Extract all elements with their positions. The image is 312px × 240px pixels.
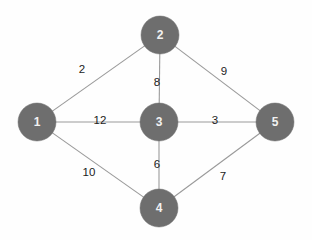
edge-weight-label-3-4: 6 xyxy=(154,158,160,170)
graph-edge-1-4 xyxy=(52,132,145,197)
edge-weight-label-3-5: 3 xyxy=(212,114,218,126)
graph-edge-2-5 xyxy=(174,46,260,111)
graph-node-2[interactable]: 2 xyxy=(141,16,179,54)
edge-weight-label-1-4: 10 xyxy=(83,166,96,178)
node-label-3: 3 xyxy=(156,115,163,129)
graph-node-5[interactable]: 5 xyxy=(256,103,294,141)
graph-edge-4-5 xyxy=(173,133,260,198)
graph-diagram-canvas: 12345 2981236107 xyxy=(0,0,312,240)
node-label-2: 2 xyxy=(157,28,164,42)
edge-weight-label-2-5: 9 xyxy=(221,65,227,77)
graph-svg: 12345 2981236107 xyxy=(0,0,312,240)
node-label-4: 4 xyxy=(156,201,163,215)
graph-node-1[interactable]: 1 xyxy=(18,103,56,141)
edge-weight-label-1-3: 12 xyxy=(94,114,107,126)
node-label-1: 1 xyxy=(34,115,41,129)
edge-weight-label-1-2: 2 xyxy=(79,63,85,75)
edge-weight-label-2-3: 8 xyxy=(154,76,160,88)
graph-edge-1-2 xyxy=(52,45,146,111)
node-label-5: 5 xyxy=(272,115,279,129)
graph-node-3[interactable]: 3 xyxy=(140,103,178,141)
edge-weight-label-4-5: 7 xyxy=(220,170,226,182)
graph-node-4[interactable]: 4 xyxy=(140,189,178,227)
